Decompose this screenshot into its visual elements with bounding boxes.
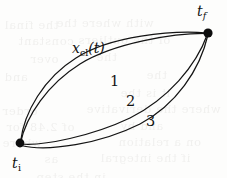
- label-t-initial: ti: [12, 156, 21, 172]
- curve-path-3: [21, 35, 208, 148]
- label-t-initial-subscript: i: [18, 162, 21, 173]
- endpoint-dot-initial: [16, 139, 25, 148]
- label-xcl-x: x: [72, 40, 80, 56]
- path-integral-figure: the finalwith where theconstantof the ou…: [0, 0, 227, 178]
- curve-path-2: [21, 34, 208, 144]
- label-classical-path: xcl(t): [72, 41, 105, 57]
- label-xcl-argument: (t): [88, 40, 105, 56]
- label-path-1: 1: [110, 74, 119, 89]
- label-t-final-base: t: [197, 3, 203, 19]
- label-t-final-subscript: f: [203, 10, 207, 21]
- label-t-final: tf: [197, 4, 206, 20]
- label-xcl-subscript: cl: [80, 47, 88, 58]
- endpoint-dot-final: [203, 28, 212, 37]
- label-path-2: 2: [126, 94, 135, 109]
- label-path-3: 3: [146, 114, 155, 129]
- label-t-initial-base: t: [12, 155, 18, 171]
- paths-svg: [0, 0, 227, 178]
